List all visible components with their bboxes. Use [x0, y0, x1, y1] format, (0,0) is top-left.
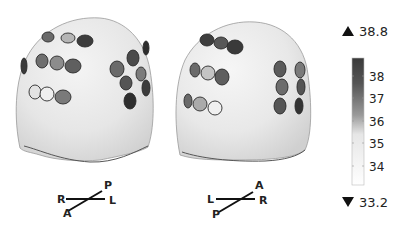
electrode [142, 80, 150, 96]
electrode [120, 76, 132, 90]
electrode [227, 40, 243, 54]
electrode [214, 37, 228, 49]
electrode [50, 56, 64, 70]
colorbar-tick: 37 [369, 92, 384, 106]
electrode [127, 50, 139, 66]
label-bottom: P [212, 208, 220, 221]
electrode [55, 90, 71, 104]
head-surface [176, 22, 311, 160]
electrode [136, 67, 146, 81]
orientation-indicator-left: P R L A [57, 179, 116, 220]
electrode [21, 58, 27, 74]
electrode [124, 93, 136, 109]
electrode [201, 66, 215, 80]
label-top: A [255, 179, 264, 192]
electrode [42, 32, 54, 42]
label-bottom: A [63, 207, 72, 220]
colorbar-tick: 38 [369, 70, 384, 84]
electrode [274, 98, 286, 114]
colorbar-tick: 36 [369, 115, 384, 129]
electrode [29, 85, 41, 99]
electrode [40, 87, 54, 101]
colorbar-tick: 35 [369, 137, 384, 151]
electrode [184, 94, 192, 108]
electrode [208, 101, 222, 115]
orientation-indicator-right: A L R P [207, 179, 268, 221]
electrode [61, 33, 75, 43]
electrode [274, 61, 286, 77]
electrode [297, 79, 305, 95]
label-left: R [57, 193, 66, 206]
electrode [295, 62, 305, 78]
electrode [77, 35, 93, 47]
figure: P R L A A L R P 38.8 38 37 36 35 34 33.2 [0, 0, 405, 226]
electrode [190, 63, 200, 77]
label-left: L [207, 193, 214, 206]
electrode [36, 54, 48, 68]
colorbar-min-label: 33.2 [359, 195, 388, 210]
colorbar: 38.8 38 37 36 35 34 33.2 [342, 24, 388, 210]
label-top: P [104, 179, 112, 192]
colorbar-tick: 34 [369, 160, 384, 174]
electrode [110, 61, 124, 77]
min-triangle-icon [342, 197, 354, 207]
max-triangle-icon [342, 26, 354, 36]
electrode [295, 98, 303, 114]
electrode [200, 34, 214, 46]
electrode [215, 69, 229, 85]
head-right-view [176, 22, 311, 161]
label-right: L [109, 194, 116, 207]
electrode [193, 97, 207, 111]
electrode [276, 79, 288, 95]
label-right: R [259, 194, 268, 207]
electrode [65, 59, 81, 73]
head-left-view [16, 18, 153, 162]
electrode [143, 41, 149, 55]
colorbar-max-label: 38.8 [359, 24, 388, 39]
